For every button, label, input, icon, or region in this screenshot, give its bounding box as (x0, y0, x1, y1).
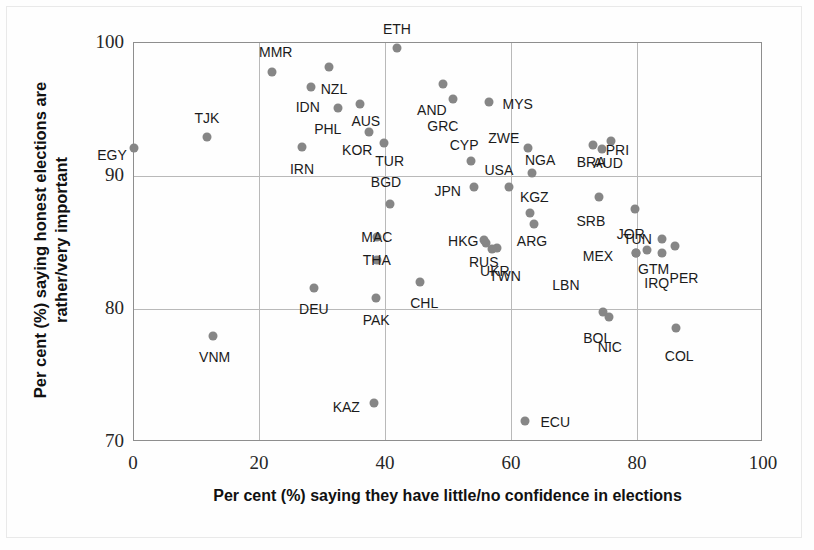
scatter-point-chl (416, 278, 425, 287)
chart-figure: Per cent (%) saying honest elections are… (0, 0, 814, 550)
scatter-point-zwe (523, 144, 532, 153)
point-label-tjk: TJK (195, 110, 220, 126)
scatter-point-eth (392, 44, 401, 53)
point-label-pak: PAK (363, 312, 390, 328)
scatter-point-per (670, 242, 679, 251)
scatter-point-col (672, 323, 681, 332)
scatter-point-egy (130, 144, 139, 153)
point-label-tha: THA (363, 252, 391, 268)
plot-area: EGYTJKVNMMMRDEUIRNIDNNZLPHLAUSKORTURETHB… (133, 42, 762, 441)
point-label-eth: ETH (383, 21, 411, 37)
point-label-hkg: HKG (448, 233, 478, 249)
point-label-mmr: MMR (259, 44, 292, 60)
scatter-point-tjk (202, 133, 211, 142)
point-label-col: COL (665, 348, 694, 364)
point-label-usa: USA (484, 162, 513, 178)
point-label-irq: IRQ (644, 275, 669, 291)
point-label-egy: EGY (97, 147, 127, 163)
y-axis-title-text: Per cent (%) saying honest elections are… (30, 40, 72, 440)
scatter-point-nic (604, 312, 613, 321)
scatter-point-jor (630, 205, 639, 214)
gridline-x-20 (259, 43, 260, 440)
gridline-y-80 (134, 309, 761, 310)
scatter-point-aud (597, 145, 606, 154)
point-label-kaz: KAZ (333, 399, 360, 415)
scatter-point-arg (530, 219, 539, 228)
point-label-nic: NIC (598, 339, 622, 355)
point-label-deu: DEU (299, 301, 329, 317)
x-tick-100: 100 (738, 452, 788, 474)
scatter-point-ecu (521, 416, 530, 425)
point-label-and: AND (417, 102, 447, 118)
scatter-point-tur (379, 138, 388, 147)
y-tick-90: 90 (78, 164, 124, 186)
x-tick-80: 80 (612, 452, 662, 474)
point-label-phl: PHL (314, 121, 341, 137)
point-label-irn: IRN (290, 161, 314, 177)
point-label-ecu: ECU (540, 414, 570, 430)
scatter-point-pak (372, 294, 381, 303)
point-label-bgd: BGD (371, 174, 401, 190)
point-label-kor: KOR (342, 142, 372, 158)
point-label-chl: CHL (410, 295, 438, 311)
point-label-jpn: JPN (434, 183, 460, 199)
scatter-point-nga (528, 169, 537, 178)
scatter-point-deu (309, 283, 318, 292)
scatter-point-and (438, 80, 447, 89)
point-label-grc: GRC (427, 118, 458, 134)
y-tick-100: 100 (78, 31, 124, 53)
point-label-zwe: ZWE (488, 130, 519, 146)
scatter-point-grc (448, 94, 457, 103)
scatter-point-nzl (324, 62, 333, 71)
gridline-y-90 (134, 176, 761, 177)
scatter-point-kor (365, 128, 374, 137)
scatter-point-bra (589, 141, 598, 150)
x-tick-60: 60 (486, 452, 536, 474)
scatter-point-mmr (267, 68, 276, 77)
point-label-ukr: UKR (480, 263, 510, 279)
point-label-mex: MEX (583, 248, 613, 264)
point-label-kgz: KGZ (520, 189, 549, 205)
scatter-point-mys (484, 97, 493, 106)
scatter-point-kgz (526, 209, 535, 218)
point-label-idn: IDN (296, 99, 320, 115)
scatter-point-gtm (642, 246, 651, 255)
scatter-point-jpn (469, 182, 478, 191)
scatter-point-tun (658, 234, 667, 243)
point-label-nzl: NZL (321, 81, 347, 97)
point-label-aus: AUS (351, 113, 380, 129)
scatter-point-rus (479, 235, 488, 244)
scatter-point-srb (594, 193, 603, 202)
y-tick-80: 80 (78, 297, 124, 319)
point-label-vnm: VNM (199, 349, 230, 365)
scatter-point-bgd (386, 199, 395, 208)
scatter-point-ukr (487, 245, 496, 254)
x-tick-20: 20 (234, 452, 284, 474)
point-label-tur: TUR (375, 153, 404, 169)
scatter-point-irq (657, 249, 666, 258)
x-tick-0: 0 (108, 452, 158, 474)
x-tick-40: 40 (360, 452, 410, 474)
point-label-cyp: CYP (450, 137, 479, 153)
point-label-mac: MAC (361, 229, 392, 245)
scatter-point-kaz (370, 399, 379, 408)
point-label-tun: TUN (623, 231, 652, 247)
point-label-srb: SRB (576, 213, 605, 229)
scatter-point-cyp (467, 157, 476, 166)
point-label-per: PER (670, 270, 699, 286)
point-label-nga: NGA (525, 152, 555, 168)
scatter-point-phl (333, 104, 342, 113)
x-axis-title: Per cent (%) saying they have little/no … (133, 487, 762, 505)
point-label-arg: ARG (517, 233, 547, 249)
scatter-point-usa (504, 182, 513, 191)
scatter-point-irn (297, 142, 306, 151)
point-label-aud: AUD (593, 155, 623, 171)
y-axis-title: Per cent (%) saying honest elections are… (14, 30, 88, 450)
scatter-point-aus (355, 100, 364, 109)
scatter-point-idn (306, 82, 315, 91)
scatter-point-vnm (208, 331, 217, 340)
point-label-lbn: LBN (552, 277, 579, 293)
point-label-mys: MYS (503, 96, 533, 112)
y-tick-70: 70 (78, 430, 124, 452)
scatter-point-lbn (631, 249, 640, 258)
